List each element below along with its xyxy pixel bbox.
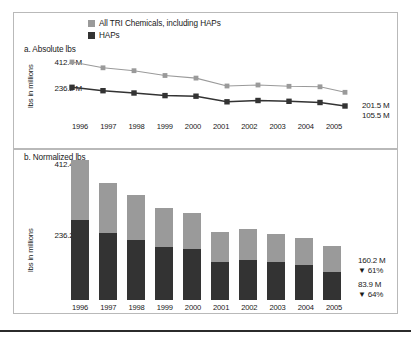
panel-b-plot-area [66,160,348,300]
series-line-haps [72,87,345,106]
x-tick-label: 1997 [94,122,122,134]
series-markers-all-tri [70,60,348,95]
x-tick-label: 2003 [263,303,291,315]
panel-a-y-axis-title: lbs in millions [26,64,35,108]
bar-segment-all-tri [127,195,145,241]
bar-segment-haps [323,272,341,301]
panel-a-title: a. Absolute lbs [24,45,76,54]
x-tick-label: 1999 [151,122,179,134]
bar-segment-all-tri [183,213,201,249]
bar-segment-haps [127,240,145,300]
x-tick-label: 2002 [235,303,263,315]
bar-segment-all-tri [267,234,285,262]
bar-segment-haps [239,260,257,300]
bar-segment-haps [155,247,173,300]
x-tick-label: 1999 [151,303,179,315]
chart-legend: All TRI Chemicals, including HAPs HAPs [88,18,221,42]
legend-item-haps: HAPs [88,30,221,41]
panel-b-end-annotation-haps: 83.9 M ▼ 64% [358,280,383,299]
bar-segment-haps [183,249,201,300]
x-tick-label: 2002 [235,122,263,134]
x-tick-label: 1996 [66,303,94,315]
x-tick-label: 2004 [292,122,320,134]
bar-2004 [295,160,313,300]
panel-b-end-pct-all-tri: ▼ 61% [358,266,386,276]
bar-segment-all-tri [323,246,341,272]
bar-1999 [155,160,173,300]
legend-label-haps: HAPs [99,31,120,40]
panel-a-line-svg [66,58,348,113]
panel-b-end-label-haps: 83.9 M [358,280,381,289]
series-line-all-tri [72,62,345,92]
bar-segment-all-tri [211,232,229,262]
bar-2000 [183,160,201,300]
x-tick-label: 2004 [292,303,320,315]
figure-container: All TRI Chemicals, including HAPs HAPs a… [0,0,411,342]
x-tick-label: 1998 [122,303,150,315]
x-tick-label: 2000 [179,122,207,134]
x-tick-label: 2005 [320,122,348,134]
bar-2005 [323,160,341,300]
x-tick-label: 2003 [263,122,291,134]
bar-segment-all-tri [239,229,257,260]
panel-a-end-label-haps: 105.5 M [362,111,390,120]
bottom-rule [0,330,411,332]
legend-item-all-tri: All TRI Chemicals, including HAPs [88,18,221,29]
bar-1998 [127,160,145,300]
bar-segment-haps [295,265,313,300]
bar-2003 [267,160,285,300]
bar-segment-haps [267,262,285,300]
legend-swatch-all-tri-icon [88,20,95,27]
panel-b-x-axis-ticks: 1996 1997 1998 1999 2000 2001 2002 2003 … [66,303,348,315]
x-tick-label: 2001 [207,303,235,315]
series-markers-haps [69,85,347,109]
panel-a-plot-area [66,58,348,113]
panel-b-end-pct-haps: ▼ 64% [358,290,383,300]
bar-segment-all-tri [295,238,313,265]
panel-b-end-label-all-tri: 160.2 M [358,256,386,265]
panel-a-end-label-all-tri: 201.5 M [362,101,390,110]
x-tick-label: 1996 [66,122,94,134]
panel-divider [14,148,397,150]
panel-a-x-axis-ticks: 1996 1997 1998 1999 2000 2001 2002 2003 … [66,122,348,134]
x-tick-label: 2005 [320,303,348,315]
bar-1997 [99,160,117,300]
bar-segment-all-tri [99,183,117,233]
bar-segment-all-tri [71,160,89,220]
x-tick-label: 2000 [179,303,207,315]
legend-swatch-haps-icon [88,32,95,39]
bar-1996 [71,160,89,300]
bar-segment-haps [71,220,89,300]
bar-2001 [211,160,229,300]
x-tick-label: 1998 [122,122,150,134]
legend-label-all-tri: All TRI Chemicals, including HAPs [99,19,221,28]
x-tick-label: 2001 [207,122,235,134]
x-tick-label: 1997 [94,303,122,315]
bar-segment-all-tri [155,208,173,247]
bar-2002 [239,160,257,300]
bar-segment-haps [211,262,229,300]
panel-b-end-annotation-all-tri: 160.2 M ▼ 61% [358,256,386,275]
bar-segment-haps [99,233,117,300]
